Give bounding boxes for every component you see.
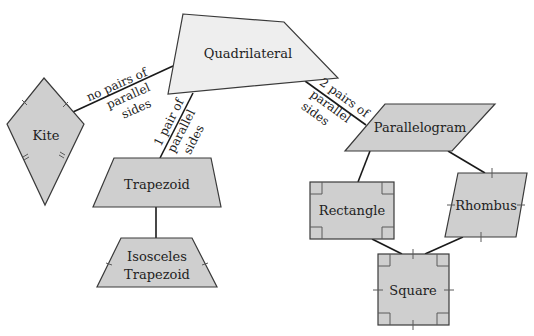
quadrilateral-label: Quadrilateral bbox=[204, 46, 292, 61]
diagram-canvas: Quadrilateral Kite Trapezoid Isosceles T… bbox=[0, 0, 534, 336]
node-quadrilateral: Quadrilateral bbox=[168, 14, 338, 94]
node-rectangle: Rectangle bbox=[310, 182, 394, 239]
isosceles-label-line2: Trapezoid bbox=[124, 267, 190, 282]
node-kite: Kite bbox=[7, 78, 84, 205]
node-square: Square bbox=[373, 249, 454, 330]
square-label: Square bbox=[389, 283, 437, 298]
parallelogram-label: Parallelogram bbox=[374, 120, 467, 135]
edge-label-no-pairs: no pairs of parallel sides bbox=[84, 64, 163, 131]
edge-label-one-pair: 1 pair of parallel sides bbox=[151, 95, 214, 162]
rectangle-label: Rectangle bbox=[319, 203, 386, 218]
isosceles-label-line1: Isosceles bbox=[127, 249, 187, 264]
edge-parallelogram-rectangle bbox=[358, 151, 370, 182]
edge-rhombus-square bbox=[425, 237, 463, 254]
edge-parallelogram-rhombus bbox=[448, 151, 485, 173]
kite-label: Kite bbox=[33, 128, 60, 143]
node-rhombus: Rhombus bbox=[445, 168, 527, 242]
edge-rectangle-square bbox=[372, 239, 402, 254]
quadrilateral-hierarchy-diagram: Quadrilateral Kite Trapezoid Isosceles T… bbox=[0, 0, 534, 336]
node-trapezoid: Trapezoid bbox=[93, 158, 221, 207]
trapezoid-label: Trapezoid bbox=[124, 177, 190, 192]
node-isosceles-trapezoid: Isosceles Trapezoid bbox=[97, 238, 217, 287]
rhombus-label: Rhombus bbox=[455, 198, 517, 213]
